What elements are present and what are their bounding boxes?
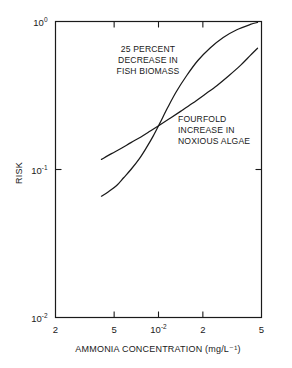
- y-tick-label: 10-1: [31, 164, 48, 176]
- noxious-algae-annotation: FOURFOLDINCREASE INNOXIOUS ALGAE: [178, 114, 250, 146]
- x-tick-label: 5: [111, 324, 116, 335]
- y-tick-label: 100: [33, 16, 48, 28]
- figure-container: 2510-225 10010-110-2 25 PERCENTDECREASE …: [0, 0, 292, 368]
- x-axis-title: AMMONIA CONCENTRATION (mg/L⁻¹): [75, 344, 240, 354]
- x-tick-label: 2: [53, 324, 58, 335]
- x-tick-label: 2: [200, 324, 205, 335]
- risk-vs-ammonia-chart: 2510-225 10010-110-2 25 PERCENTDECREASE …: [0, 0, 292, 368]
- chart-annotations: 25 PERCENTDECREASE INFISH BIOMASSFOURFOL…: [117, 44, 251, 146]
- y-axis-tick-labels: 10010-110-2: [31, 16, 48, 324]
- x-tick-label: 10-2: [150, 323, 167, 335]
- y-axis-title: RISK: [14, 162, 24, 184]
- y-tick-label: 10-2: [31, 312, 48, 324]
- fish-biomass-annotation: 25 PERCENTDECREASE INFISH BIOMASS: [117, 44, 180, 76]
- x-axis-tick-labels: 2510-225: [53, 323, 264, 335]
- x-tick-label: 5: [259, 324, 264, 335]
